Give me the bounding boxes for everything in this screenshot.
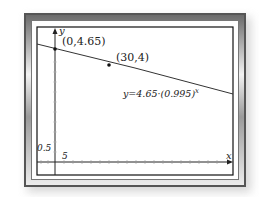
equation-label: y=4.65·(0.995)x bbox=[123, 87, 199, 99]
point-30-4 bbox=[107, 63, 111, 67]
x-axis-label: x bbox=[226, 150, 232, 161]
point-label-2: (30,4) bbox=[116, 51, 149, 64]
point-label-1: (0,4.65) bbox=[62, 35, 106, 48]
x-tick-label: 5 bbox=[62, 151, 68, 161]
equation-main: y=4.65·(0.995) bbox=[123, 88, 195, 99]
equation-exponent: x bbox=[195, 87, 199, 95]
y-axis-arrow-icon bbox=[53, 28, 58, 34]
y-tick-label: 0.5 bbox=[37, 143, 51, 153]
point-0-4.65 bbox=[53, 47, 57, 51]
